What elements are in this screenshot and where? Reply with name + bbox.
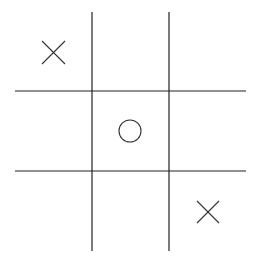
cell-1-0[interactable] <box>15 91 92 171</box>
cell-2-2[interactable] <box>169 171 246 251</box>
cell-2-1[interactable] <box>92 171 169 251</box>
cell-2-0[interactable] <box>15 171 92 251</box>
cell-1-1[interactable] <box>92 91 169 171</box>
cell-0-2[interactable] <box>169 12 246 91</box>
cell-1-2[interactable] <box>169 91 246 171</box>
cell-0-1[interactable] <box>92 12 169 91</box>
tic-tac-toe-board <box>0 0 256 266</box>
cell-0-0[interactable] <box>15 12 92 91</box>
